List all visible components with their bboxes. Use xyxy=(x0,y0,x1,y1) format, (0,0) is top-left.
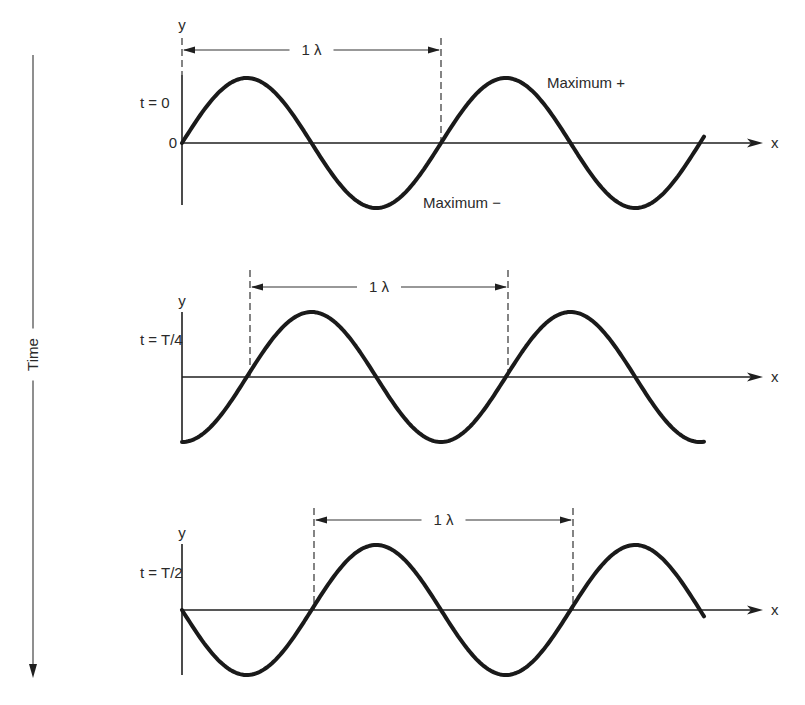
time-label-t-quarter: t = T/4 xyxy=(140,331,183,348)
traveling-wave-diagram: Time t = 0 y x 0 1 λ Maximum + Maximum −… xyxy=(0,0,805,705)
arrow-right-icon xyxy=(495,284,507,291)
panel-t-quarter-period: t = T/4 y x 1 λ xyxy=(140,270,779,442)
time-axis: Time xyxy=(24,55,41,678)
time-arrow-down-icon xyxy=(29,664,37,678)
wave-figure-svg: Time t = 0 y x 0 1 λ Maximum + Maximum −… xyxy=(0,0,805,705)
annotation-maximum-minus: Maximum − xyxy=(423,194,501,211)
wavelength-label: 1 λ xyxy=(301,41,322,58)
time-label-t0: t = 0 xyxy=(140,94,170,111)
wavelength-label: 1 λ xyxy=(433,511,454,528)
wavelength-label: 1 λ xyxy=(369,278,390,295)
x-axis-label: x xyxy=(771,601,779,618)
time-label-t-half: t = T/2 xyxy=(140,564,183,581)
annotation-maximum-plus: Maximum + xyxy=(547,74,625,91)
arrow-left-icon xyxy=(315,517,327,524)
panel-t-half-period: t = T/2 y x 1 λ xyxy=(140,508,779,675)
x-axis-label: x xyxy=(771,368,779,385)
arrow-left-icon xyxy=(183,47,195,54)
y-axis-label: y xyxy=(178,524,186,541)
arrow-right-icon xyxy=(560,517,572,524)
arrow-left-icon xyxy=(251,284,263,291)
y-axis-label: y xyxy=(178,292,186,309)
y-axis-label: y xyxy=(178,16,186,33)
origin-label: 0 xyxy=(169,134,177,151)
time-axis-label: Time xyxy=(24,338,41,371)
x-axis-label: x xyxy=(771,134,779,151)
panel-t-0: t = 0 y x 0 1 λ Maximum + Maximum − xyxy=(140,16,779,211)
arrow-right-icon xyxy=(428,47,440,54)
